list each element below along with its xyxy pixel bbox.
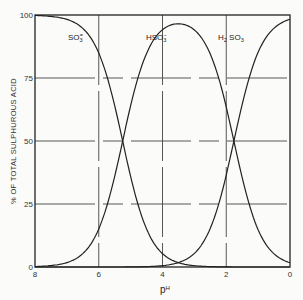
y-axis-label: % OF TOTAL SULPHUROUS ACID	[9, 78, 18, 204]
x-tick-label: 0	[288, 270, 293, 279]
x-tick-label: 8	[33, 270, 38, 279]
y-tick-label: 25	[24, 200, 33, 209]
curve-labels: SO3=HSO3−H2 SO3	[68, 32, 244, 43]
label-H2SO3: H2 SO3	[218, 33, 244, 43]
label-HSO3-: HSO3−	[146, 32, 167, 43]
y-tick-label: 50	[24, 137, 33, 146]
x-axis-label: pH	[160, 284, 170, 295]
y-tick-label: 75	[24, 74, 33, 83]
x-tick-label: 4	[160, 270, 165, 279]
x-tick-label: 6	[97, 270, 102, 279]
grid-lines	[35, 15, 290, 267]
x-axis-ticks: 86420	[33, 270, 293, 279]
chart: 86420 0255075100 % OF TOTAL SULPHUROUS A…	[0, 0, 303, 300]
x-tick-label: 2	[224, 270, 229, 279]
y-tick-label: 100	[20, 11, 34, 20]
y-tick-label: 0	[29, 263, 34, 272]
y-axis-ticks: 0255075100	[20, 11, 34, 272]
label-SO3=: SO3=	[68, 32, 83, 43]
